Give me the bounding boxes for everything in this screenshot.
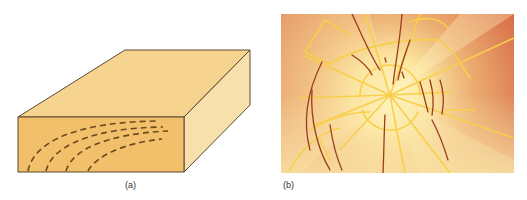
panel-b-crack-pattern bbox=[262, 0, 527, 200]
panel-a-wood-block bbox=[0, 0, 262, 200]
panel-a-caption: (a) bbox=[125, 180, 136, 190]
panel-b-caption: (b) bbox=[283, 180, 294, 190]
crack-pattern-illustration bbox=[262, 0, 527, 200]
wood-block-illustration bbox=[0, 0, 262, 200]
